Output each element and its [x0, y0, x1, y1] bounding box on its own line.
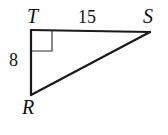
- side-length-label-TR: 8: [9, 51, 18, 69]
- vertex-label-R: R: [22, 97, 34, 117]
- side-length-label-TS: 15: [78, 8, 96, 26]
- vertex-label-S: S: [143, 6, 153, 26]
- vertex-label-T: T: [27, 6, 38, 26]
- geometry-figure: T S R 15 8: [0, 0, 168, 135]
